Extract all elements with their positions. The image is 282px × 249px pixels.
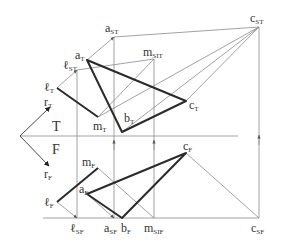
label-at: aT (75, 48, 85, 63)
label-rt: rT (44, 95, 53, 110)
label-msit: mSIT (143, 45, 164, 60)
label-af: aF (79, 182, 88, 197)
label-cst: cST (250, 11, 264, 26)
label-asf: aSF (104, 221, 117, 236)
label-lt: ℓT (44, 80, 55, 95)
label-mt: mT (93, 119, 107, 134)
line-mt-cst (98, 27, 259, 117)
label-lf: ℓF (44, 195, 54, 210)
label-csf: cSF (251, 221, 264, 236)
proj-ct-cst (186, 27, 259, 101)
arrow-rf (20, 136, 49, 166)
label-msif: mSIF (144, 221, 164, 236)
line-bt-cst (122, 27, 259, 132)
reference-arrows (20, 107, 50, 166)
edge-lt-mt (57, 88, 98, 117)
label-plane-f: F (52, 142, 60, 157)
diagram-svg: aST cST aT mSIT ℓST ℓT rT cT bT mT T F r… (0, 0, 282, 249)
label-cf: cF (183, 139, 192, 154)
arrow-rt (20, 107, 50, 136)
label-ct: cT (189, 98, 199, 113)
descriptive-geometry-diagram: aST cST aT mSIT ℓST ℓT rT cT bT mT T F r… (0, 0, 282, 249)
proj-cf-csf (186, 153, 259, 218)
label-ast: aST (105, 21, 119, 36)
triangle-front-view (87, 153, 186, 218)
label-mf: mF (82, 155, 95, 170)
label-bf: bF (121, 221, 131, 236)
label-lsf: ℓSF (70, 221, 84, 236)
proj-lf-lsf (57, 202, 77, 218)
proj-at-ast (87, 37, 114, 60)
label-bt: bT (124, 111, 135, 126)
line-ast-cst (114, 27, 259, 37)
label-rf: rF (44, 167, 52, 182)
object-lines (57, 60, 186, 218)
label-plane-t: T (52, 119, 61, 134)
